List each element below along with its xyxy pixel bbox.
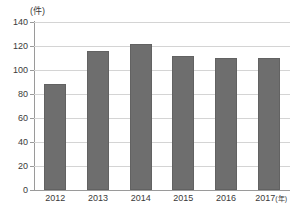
y-tick-label: 140: [13, 18, 28, 27]
bar: [130, 44, 152, 190]
y-tick-label: 100: [13, 66, 28, 75]
x-axis-tick-labels: 201220132014201520162017(年): [34, 193, 290, 207]
y-tick-label: 60: [18, 114, 28, 123]
y-tick-label: 40: [18, 138, 28, 147]
bar: [258, 58, 280, 190]
bar: [44, 84, 66, 190]
y-tick-label: 0: [23, 186, 28, 195]
gridline: [34, 190, 290, 191]
x-tick-label: 2013: [88, 193, 108, 204]
y-axis-unit-label: (件): [30, 6, 45, 17]
y-tick-label: 80: [18, 90, 28, 99]
plot-area: 020406080100120140: [34, 22, 290, 190]
y-tick-label: 120: [13, 42, 28, 51]
x-tick-label: 2015: [173, 193, 193, 204]
bar: [172, 56, 194, 190]
x-axis-unit-label: (年): [275, 195, 287, 202]
bar-chart: (件) 020406080100120140 20122013201420152…: [0, 0, 299, 207]
bars: [34, 22, 290, 190]
bar: [215, 58, 237, 190]
x-tick-label: 2014: [131, 193, 151, 204]
y-tick-mark: [30, 190, 34, 191]
bar: [87, 51, 109, 190]
x-tick-label: 2017(年): [255, 193, 287, 204]
x-tick-label: 2012: [45, 193, 65, 204]
x-tick-label: 2016: [216, 193, 236, 204]
y-tick-label: 20: [18, 162, 28, 171]
